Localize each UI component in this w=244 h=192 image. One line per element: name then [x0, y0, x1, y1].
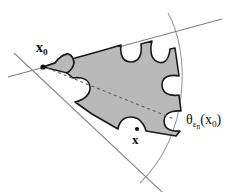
- x0-label-subscript: 0: [43, 47, 48, 57]
- x0-label-base: x: [36, 40, 43, 55]
- arg-base: x: [205, 112, 212, 127]
- x-label: x: [132, 133, 139, 146]
- theta-epsilon-n-x0-label: θεn(x0): [186, 113, 221, 131]
- theta-symbol: θ: [186, 112, 193, 127]
- x-label-base: x: [132, 132, 139, 147]
- figure-diagram: [0, 0, 244, 192]
- left-tip-scallop: [43, 54, 74, 73]
- paren-close: ): [217, 112, 222, 127]
- boundary-point-marker: [135, 127, 139, 131]
- figure-container: x0 x θεn(x0): [0, 0, 244, 192]
- vertex-point-marker: [40, 64, 45, 69]
- x0-label: x0: [36, 41, 48, 57]
